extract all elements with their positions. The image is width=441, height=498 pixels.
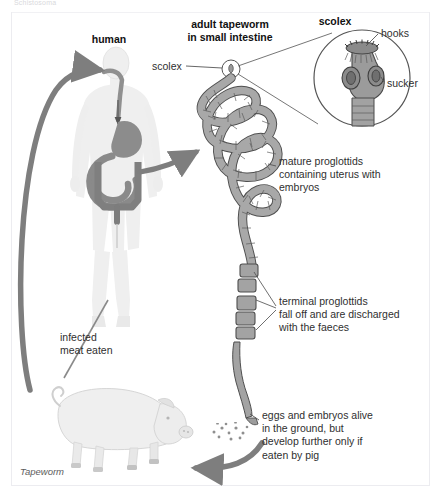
terminal-proglottids-leader-lines (254, 272, 276, 330)
label-infected-meat: infected meat eaten (60, 331, 140, 357)
label-human: human (64, 33, 154, 46)
label-scolex-title: scolex (300, 15, 370, 28)
label-hooks: hooks (381, 27, 409, 40)
figure-caption: Tapeworm (20, 466, 64, 477)
tapeworm-lifecycle-figure: Schistosoma (0, 0, 441, 498)
label-eggs: eggs and embryos alive in the ground, bu… (262, 409, 432, 462)
label-sucker: sucker (387, 77, 418, 90)
label-scolex-callout: scolex (152, 60, 182, 73)
label-mature-proglottids: mature proglottids containing uterus wit… (279, 155, 429, 195)
pig-icon (53, 387, 193, 472)
tapeworm-icon (201, 60, 278, 425)
human-body-icon (70, 47, 163, 327)
arrow-to-pig (196, 443, 262, 468)
label-terminal-proglottids: terminal proglottids fall off and are di… (279, 295, 431, 335)
label-adult-tapeworm: adult tapeworm in small intestine (168, 18, 292, 44)
scolex-callout-leader-line (186, 66, 222, 68)
eggs-icon (213, 422, 249, 441)
